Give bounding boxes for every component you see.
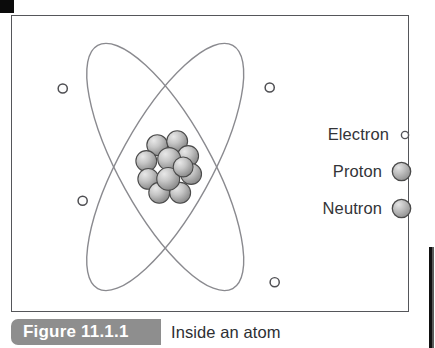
figure-caption-number: Figure 11.1.1 [23, 322, 129, 342]
legend-label-proton: Proton [333, 162, 382, 181]
proton-symbol-icon [391, 161, 412, 182]
nucleon [173, 157, 193, 177]
page-corner-artifact [0, 0, 14, 13]
legend-label-neutron: Neutron [323, 199, 382, 218]
figure-caption-tab: Figure 11.1.1 [11, 319, 161, 345]
neutron-symbol-icon [391, 198, 412, 219]
nucleus [136, 131, 202, 204]
page-right-edge-artifact-secondary [432, 247, 434, 348]
electron-mid-left [78, 196, 87, 205]
electron-symbol-icon [398, 128, 412, 142]
figure-caption-text: Inside an atom [161, 319, 281, 345]
electron-bottom-right [270, 278, 279, 287]
figure-caption: Figure 11.1.1 Inside an atom [11, 319, 281, 345]
electron-top-right [265, 83, 274, 92]
legend-item-neutron: Neutron [284, 190, 412, 227]
legend-item-proton: Proton [284, 153, 412, 190]
legend-label-electron: Electron [328, 125, 389, 144]
legend-item-electron: Electron [284, 116, 412, 153]
electron-top-left [58, 84, 67, 93]
figure-page: Electron Proton Neutron Figure 11 [0, 0, 435, 348]
legend: Electron Proton Neutron [284, 116, 412, 227]
figure-frame: Electron Proton Neutron [11, 15, 409, 312]
